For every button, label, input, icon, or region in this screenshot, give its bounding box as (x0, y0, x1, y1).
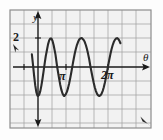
y-tick-label-2: 2 (13, 31, 19, 43)
trig-graph-figure: y θ 2 π 2π (0, 0, 163, 140)
x-axis-label: θ (143, 52, 148, 63)
plot-background (10, 10, 151, 128)
plot-canvas (0, 0, 163, 140)
x-tick-label-2pi: 2π (101, 69, 114, 81)
y-axis-label: y (33, 12, 38, 23)
x-tick-label-pi: π (59, 70, 66, 82)
